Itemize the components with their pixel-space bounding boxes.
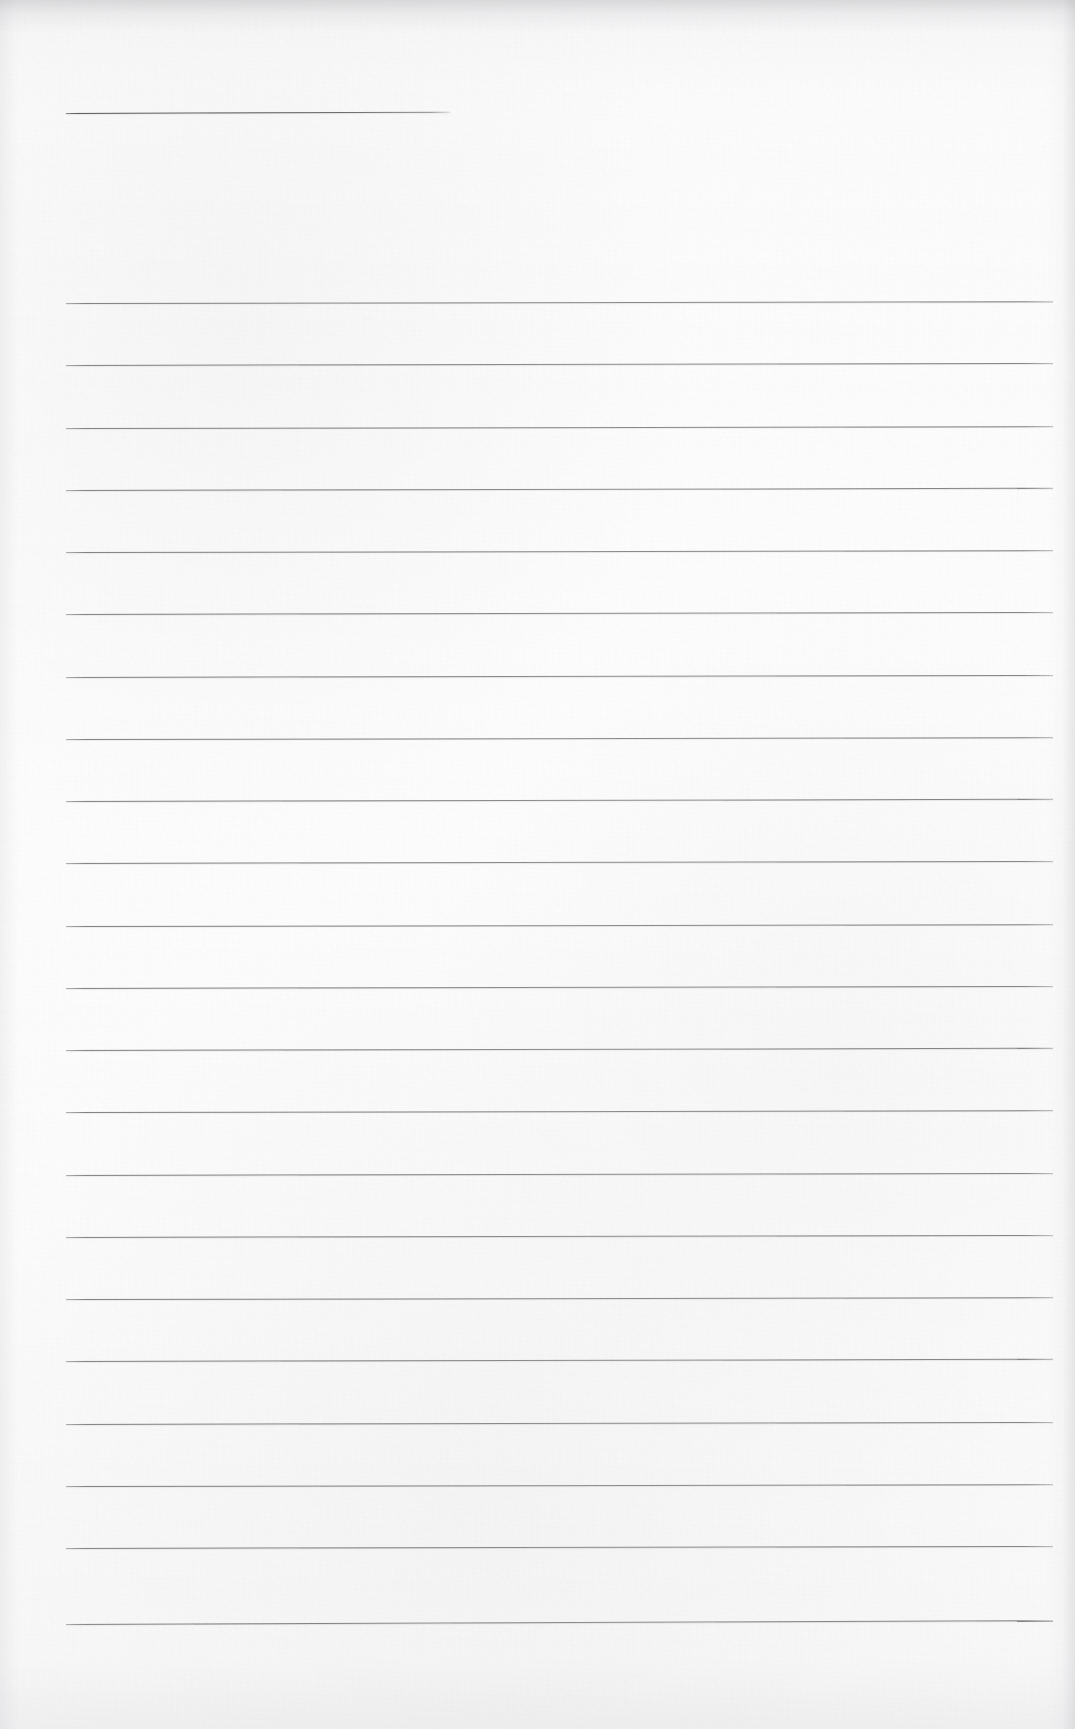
scanned-page [0, 0, 1075, 1729]
paper-background [0, 0, 1075, 1729]
